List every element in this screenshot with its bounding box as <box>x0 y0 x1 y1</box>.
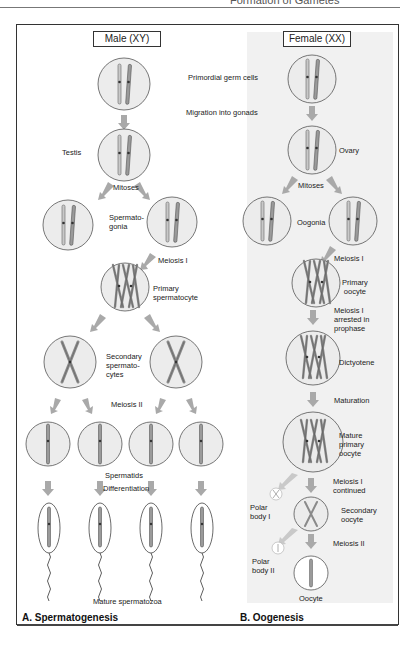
male-primary-spermatocyte-cell <box>101 263 149 311</box>
label-line: body I <box>250 512 270 521</box>
male-spermatogonium-cell <box>147 197 197 247</box>
label-line: spermatocyte <box>153 293 198 302</box>
label-line: Secondary <box>341 506 377 515</box>
label-meiosis-1-arrested: Meiosis I arrested in prophase <box>334 306 369 333</box>
label-line: Meiosis I <box>333 477 363 486</box>
label-polar-body-2: Polar body II <box>252 557 275 575</box>
label-line: body II <box>252 566 275 575</box>
label-male-mitoses: Mitoses <box>113 183 139 192</box>
male-spermatid-cell <box>129 422 173 466</box>
label-dictyotene: Dictyotene <box>339 358 374 367</box>
polar-body-2 <box>272 542 284 554</box>
label-line: arrested in <box>334 315 369 324</box>
label-secondary-spermatocytes: Secondary spermato- cytes <box>106 352 142 379</box>
female-secondary-oocyte-cell <box>294 497 328 531</box>
arrow-diagonal-icon <box>140 253 156 270</box>
label-migration-into-gonads: Migration into gonads <box>186 108 258 117</box>
arrow-diagonal-icon <box>98 182 114 200</box>
arrow-diagonal-icon <box>90 314 106 332</box>
male-spermatogonium-cell <box>43 200 93 250</box>
label-line: Mature <box>339 431 362 440</box>
female-oogonium-cell <box>243 197 291 245</box>
polar-body-1 <box>270 488 282 500</box>
female-oocyte-cell <box>294 556 328 590</box>
label-male-meiosis-1: Meiosis I <box>158 256 188 265</box>
male-spermatid-cell <box>26 422 70 466</box>
male-primordial-cell <box>98 58 150 110</box>
male-spermatozoon <box>191 503 213 601</box>
label-female-meiosis-2: Meiosis II <box>333 539 365 548</box>
label-mature-spermatozoa: Mature spermatozoa <box>93 597 162 606</box>
female-sex-label: Female (XX) <box>283 31 351 47</box>
female-oogonium-cell <box>329 197 377 245</box>
male-spermatozoon <box>89 503 111 601</box>
male-testis-cell <box>98 129 150 181</box>
label-male-meiosis-2: Meiosis II <box>111 400 143 409</box>
label-line: Meiosis I <box>334 306 364 315</box>
label-line: cytes <box>106 370 124 379</box>
male-spermatozoon <box>140 503 162 601</box>
label-line: Primary <box>153 284 179 293</box>
female-ovary-cell <box>288 126 336 174</box>
label-primary-oocyte: Primary oocyte <box>342 278 368 296</box>
label-line: gonia <box>109 222 127 231</box>
label-primordial-germ-cells: Primordial germ cells <box>188 73 258 82</box>
label-line: oocyte <box>339 449 361 458</box>
male-secondary-spermatocyte-cell <box>44 336 96 388</box>
male-secondary-spermatocyte-cell <box>150 336 202 388</box>
label-ovary: Ovary <box>339 146 359 155</box>
label-spermatids: Spermatids <box>105 471 143 480</box>
label-spermatogonia: Spermato- gonia <box>109 213 144 231</box>
label-female-meiosis-1: Meiosis I <box>334 254 364 263</box>
label-line: oocyte <box>341 515 363 524</box>
female-mature-primary-oocyte-cell <box>283 412 343 472</box>
label-line: oocyte <box>344 287 366 296</box>
label-female-mitoses: Mitoses <box>298 181 324 190</box>
label-mature-primary-oocyte: Mature primary oocyte <box>339 431 364 458</box>
label-oogonia: Oogonia <box>297 218 325 227</box>
label-line: prophase <box>334 324 365 333</box>
label-oocyte: Oocyte <box>299 594 323 603</box>
label-meiosis-1-continued: Meiosis I continued <box>333 477 366 495</box>
female-primordial-cell <box>288 55 336 103</box>
arrow-down-icon <box>118 115 130 130</box>
label-line: primary <box>339 440 364 449</box>
label-testis: Testis <box>62 148 81 157</box>
label-primary-spermatocyte: Primary spermatocyte <box>153 284 198 302</box>
label-line: Secondary <box>106 352 142 361</box>
label-line: continued <box>333 486 366 495</box>
arrow-diagonal-icon <box>144 314 160 332</box>
male-spermatozoon <box>38 503 60 601</box>
label-line: Polar <box>252 557 270 566</box>
label-maturation: Maturation <box>334 396 369 405</box>
panel-title-oogenesis: B. Oogenesis <box>240 612 304 623</box>
male-spermatid-cell <box>78 422 122 466</box>
female-dictyotene-cell <box>286 331 340 385</box>
label-line: spermato- <box>106 361 140 370</box>
label-polar-body-1: Polar body I <box>250 503 270 521</box>
label-line: Spermato- <box>109 213 144 222</box>
male-spermatid-cell <box>179 422 223 466</box>
label-line: Polar <box>250 503 268 512</box>
label-line: Primary <box>342 278 368 287</box>
panel-title-spermatogenesis: A. Spermatogenesis <box>22 612 118 623</box>
label-differentiation: Differentiation <box>103 484 149 493</box>
label-secondary-oocyte: Secondary oocyte <box>341 506 377 524</box>
male-sex-label: Male (XY) <box>93 31 161 47</box>
female-primary-oocyte-cell <box>292 259 340 307</box>
